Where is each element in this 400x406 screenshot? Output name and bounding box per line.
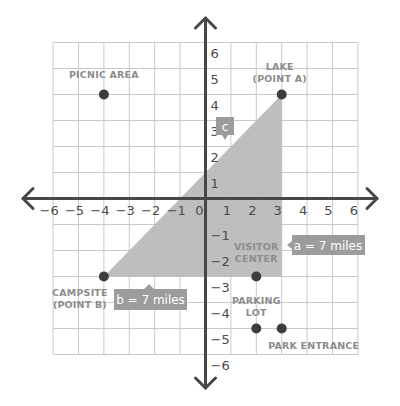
point-marker-icon: [277, 324, 287, 334]
y-tick-label: −3: [211, 280, 230, 295]
point-label: VISITOR: [234, 241, 279, 252]
y-tick-label: −6: [211, 358, 230, 373]
y-tick-label: −1: [211, 228, 230, 243]
point-parking-lot: PARKINGLOT: [232, 295, 281, 334]
point-label: PARK ENTRANCE: [268, 340, 359, 351]
point-label: LOT: [246, 307, 267, 318]
x-tick-label: 2: [248, 203, 256, 218]
callout-b: b = 7 miles: [114, 284, 187, 310]
point-lake: LAKE(POINT A): [253, 61, 307, 100]
coordinate-plane: −6−5−4−3−2−10123456654321−1−2−3−4−5−6 c …: [0, 0, 400, 406]
y-tick-label: 4: [211, 98, 219, 113]
x-tick-label: 1: [223, 203, 231, 218]
point-label: CENTER: [235, 253, 278, 264]
point-label: PARKING: [232, 295, 281, 306]
point-label: PICNIC AREA: [69, 69, 139, 80]
x-tick-label: 6: [350, 203, 358, 218]
point-label: CAMPSITE: [52, 287, 108, 298]
x-tick-label: −4: [90, 203, 109, 218]
point-marker-icon: [277, 90, 287, 100]
point-marker-icon: [251, 272, 261, 282]
y-tick-label: −2: [211, 254, 230, 269]
y-tick-label: 2: [211, 150, 219, 165]
x-tick-label: −3: [116, 203, 135, 218]
point-marker-icon: [99, 272, 109, 282]
callout-b-label: b = 7 miles: [116, 293, 185, 307]
point-label: (POINT A): [253, 73, 307, 84]
x-tick-label: −2: [141, 203, 160, 218]
x-tick-label: 0: [195, 203, 203, 218]
y-tick-label: −4: [211, 306, 230, 321]
callout-a: a = 7 miles: [287, 235, 365, 255]
point-campsite: CAMPSITE(POINT B): [52, 272, 109, 310]
x-tick-label: 3: [274, 203, 282, 218]
x-tick-label: 5: [324, 203, 332, 218]
y-tick-label: 6: [211, 46, 219, 61]
callout-a-label: a = 7 miles: [294, 239, 362, 253]
callout-c-label: c: [222, 120, 229, 134]
x-tick-label: 4: [299, 203, 307, 218]
point-marker-icon: [251, 324, 261, 334]
y-tick-label: 1: [211, 176, 219, 191]
y-tick-label: 5: [211, 72, 219, 87]
point-marker-icon: [99, 90, 109, 100]
x-tick-label: −5: [65, 203, 84, 218]
point-label: LAKE: [266, 61, 294, 72]
point-label: (POINT B): [53, 299, 107, 310]
y-tick-label: −5: [211, 332, 230, 347]
x-tick-label: −6: [40, 203, 59, 218]
x-tick-label: −1: [167, 203, 186, 218]
